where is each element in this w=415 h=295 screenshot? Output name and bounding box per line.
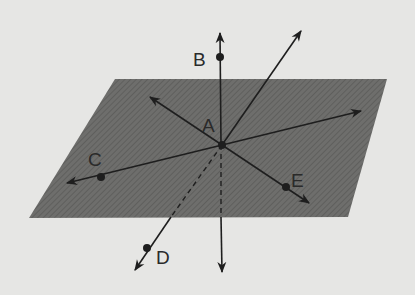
label-b: B	[193, 49, 206, 70]
point-a	[218, 141, 226, 149]
label-d: D	[156, 247, 170, 268]
point-b	[216, 53, 224, 61]
label-a: A	[202, 115, 215, 136]
point-d	[143, 244, 151, 252]
point-e	[282, 183, 290, 191]
label-e: E	[291, 170, 304, 191]
geometry-diagram: A B C D E	[0, 0, 415, 295]
label-c: C	[88, 149, 102, 170]
line-ab-lower	[221, 217, 222, 272]
line-ab-upper	[220, 33, 221, 145]
point-c	[97, 173, 105, 181]
